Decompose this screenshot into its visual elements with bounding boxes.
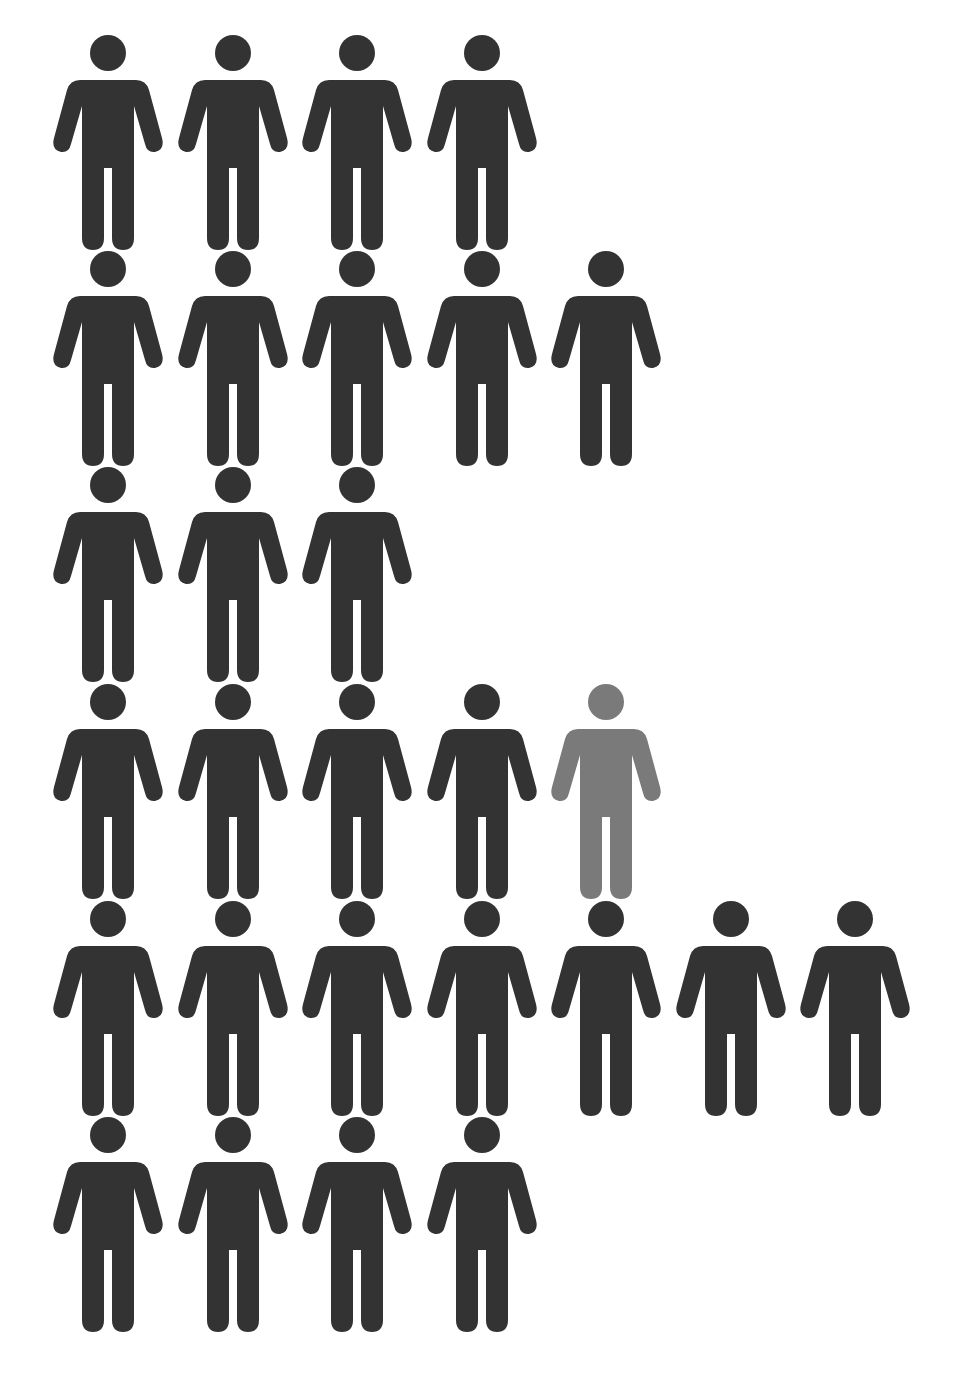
pictogram-row-5 <box>52 900 924 1116</box>
person-icon <box>52 34 164 250</box>
person-icon <box>177 34 289 250</box>
pictogram-row-1 <box>52 34 550 250</box>
person-icon <box>52 466 164 682</box>
pictogram-row-2 <box>52 250 675 466</box>
person-icon <box>301 900 413 1116</box>
person-icon <box>550 900 662 1116</box>
person-icon <box>426 900 538 1116</box>
person-icon <box>426 1116 538 1332</box>
person-icon <box>550 250 662 466</box>
person-icon <box>301 683 413 899</box>
pictogram-row-3 <box>52 466 426 682</box>
person-icon <box>52 683 164 899</box>
person-icon-highlighted <box>550 683 662 899</box>
person-icon <box>177 466 289 682</box>
person-icon <box>301 1116 413 1332</box>
person-icon <box>177 900 289 1116</box>
person-icon <box>675 900 787 1116</box>
pictogram-row-6 <box>52 1116 550 1332</box>
person-icon <box>177 1116 289 1332</box>
person-icon <box>426 250 538 466</box>
person-icon <box>52 1116 164 1332</box>
pictogram-row-4 <box>52 683 675 899</box>
person-icon <box>177 683 289 899</box>
person-icon <box>52 900 164 1116</box>
person-icon <box>426 683 538 899</box>
person-icon <box>301 34 413 250</box>
person-icon <box>301 466 413 682</box>
person-icon <box>426 34 538 250</box>
person-icon <box>177 250 289 466</box>
person-icon <box>52 250 164 466</box>
person-icon <box>301 250 413 466</box>
person-icon <box>799 900 911 1116</box>
